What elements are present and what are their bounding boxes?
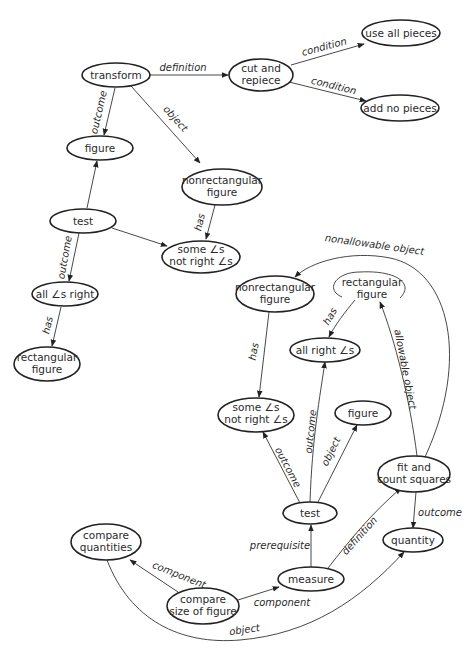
node-figure-mid: figure <box>335 401 391 425</box>
label-has-all-right: has <box>40 315 55 335</box>
node-label: rectangular <box>342 276 403 288</box>
node-label: compare <box>83 529 129 541</box>
label-definition-measure: definition <box>340 514 380 556</box>
node-transform: transform <box>82 63 150 87</box>
node-label: figure <box>260 293 290 305</box>
node-all-right-angles: all right ∠s <box>290 338 360 362</box>
node-label: all right ∠s <box>296 344 355 356</box>
label-object-quantity: object <box>228 622 261 637</box>
node-label: quantity <box>391 534 435 546</box>
node-label: figure <box>32 363 62 375</box>
node-label: repiece <box>242 74 281 86</box>
label-definition-top: definition <box>159 62 206 73</box>
edge-fit-outcome-quantity <box>413 492 416 528</box>
diagram-svg: definition condition condition outcome o… <box>0 0 473 655</box>
edge-test-figure <box>87 161 97 208</box>
node-measure: measure <box>278 567 344 591</box>
node-fit-and-count-squares: fit and count squares <box>377 456 451 492</box>
node-compare-size-of-figure: compare size of figure <box>167 588 239 624</box>
label-nonallowable: nonallowable object <box>324 232 426 257</box>
node-label: figure <box>348 407 378 419</box>
node-label: rectangular <box>17 351 78 363</box>
label-allowable: allowable object <box>392 328 419 411</box>
nodes: transform cut and repiece use all pieces… <box>14 20 451 624</box>
label-object-transform: object <box>161 104 191 135</box>
node-label: figure <box>357 288 387 300</box>
node-test-mid: test <box>283 502 337 524</box>
node-cut-and-repiece: cut and repiece <box>229 59 293 91</box>
node-label: quantities <box>80 541 132 553</box>
node-nonrectangular-figure-mid: nonrectangular figure <box>235 276 316 312</box>
label-has-nonrect-mid: has <box>247 342 261 361</box>
edge-transform-object-nonrect <box>131 86 200 163</box>
node-label: nonrectangular <box>235 281 316 293</box>
node-label: compare <box>180 593 226 605</box>
node-figure-top: figure <box>67 136 133 160</box>
node-rectangular-figure-left: rectangular figure <box>14 347 80 381</box>
node-label: some ∠s <box>178 243 225 255</box>
node-rectangular-figure-mid: rectangular figure <box>342 276 403 300</box>
node-add-no-pieces: add no pieces <box>361 95 439 121</box>
edge-allright-has-rect <box>52 307 61 346</box>
node-some-angles-mid: some ∠s not right ∠s <box>218 398 294 432</box>
node-label: all ∠s right <box>36 288 95 300</box>
label-component-measure: component <box>254 597 312 608</box>
node-label: use all pieces <box>365 27 436 39</box>
label-outcome-quantity: outcome <box>418 507 462 518</box>
node-label: count squares <box>377 473 451 485</box>
node-label: nonrectangular <box>182 174 263 186</box>
node-label: not right ∠s <box>169 255 232 267</box>
node-label: measure <box>288 573 334 585</box>
label-component-cq: component <box>151 559 209 591</box>
node-label: test <box>73 215 93 227</box>
label-object-figure: object <box>319 434 343 467</box>
node-all-angles-right: all ∠s right <box>32 282 98 306</box>
label-prerequisite: prerequisite <box>249 540 310 551</box>
label-outcome-some: outcome <box>273 445 303 489</box>
edge-nonrect-has-some <box>206 205 215 239</box>
node-label: figure <box>207 186 237 198</box>
label-outcome-allright: outcome <box>303 409 319 454</box>
node-label: transform <box>90 69 141 81</box>
node-compare-quantities: compare quantities <box>71 524 141 560</box>
node-nonrectangular-figure-top: nonrectangular figure <box>182 169 263 205</box>
edge-test-some <box>112 228 167 246</box>
node-test-top: test <box>50 209 116 233</box>
node-label: not right ∠s <box>224 413 287 425</box>
concept-map-diagram: definition condition condition outcome o… <box>0 0 473 655</box>
label-condition-1: condition <box>300 35 348 58</box>
node-label: fit and <box>397 461 431 473</box>
node-use-all-pieces: use all pieces <box>362 20 440 46</box>
label-has-nonrect-top: has <box>192 212 207 232</box>
node-some-angles-top: some ∠s not right ∠s <box>162 241 240 273</box>
node-label: size of figure <box>169 605 237 617</box>
node-label: add no pieces <box>363 102 436 114</box>
node-quantity: quantity <box>383 528 443 552</box>
node-label: cut and <box>241 62 281 74</box>
node-label: some ∠s <box>233 401 280 413</box>
node-label: figure <box>85 142 115 154</box>
edge-nonrect-has-some-mid <box>259 312 269 397</box>
label-has-rect-mid: has <box>321 306 339 327</box>
node-label: test <box>300 507 320 519</box>
